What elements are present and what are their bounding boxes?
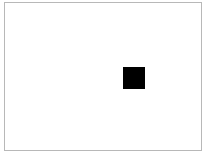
canvas-frame	[4, 2, 202, 151]
canvas-surface[interactable]	[5, 3, 201, 150]
app-root	[0, 0, 207, 156]
black-square-shape[interactable]	[123, 67, 145, 89]
